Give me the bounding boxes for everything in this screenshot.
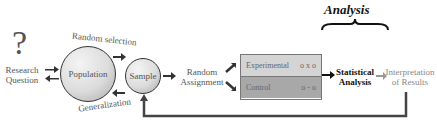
random-selection-label: Random selection [72,31,137,48]
population-node: Population [60,46,116,102]
random-assignment-node: Random Assignment [178,67,226,87]
question-mark-icon: ? [12,26,27,60]
arrow-right-icon [113,52,127,62]
research-question-node: Research Question [2,65,42,85]
sample-node: Sample [125,58,161,94]
feedback-loop-arrow [140,92,415,122]
experimental-group-row: Experimental o x o [241,55,321,77]
statistical-analysis-node: Statistical Analysis [333,67,377,87]
interpretation-node: Interpretation of Results [384,67,436,87]
arrow-right-icon [163,71,177,81]
analysis-label: Analysis [324,2,370,18]
curly-brace-icon [320,18,390,32]
split-arrows-icon [224,62,238,92]
bidirectional-arrow-icon [44,64,60,84]
